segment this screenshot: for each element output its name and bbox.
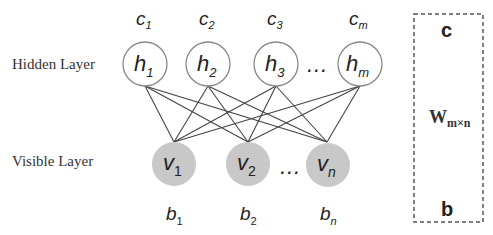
svg-text:b2: b2: [240, 203, 257, 227]
hidden-node-m: cm hm: [338, 8, 382, 86]
param-w: Wm×n: [429, 107, 471, 130]
visible-node-2: v2 b2: [226, 142, 270, 227]
visible-node-1: v1 b1: [152, 142, 196, 227]
param-b: b: [441, 198, 453, 220]
edges: [145, 86, 360, 142]
svg-text:bn: bn: [320, 203, 337, 227]
parameter-box: c Wm×n b: [414, 14, 483, 222]
visible-layer-label: Visible Layer: [12, 153, 93, 169]
param-c: c: [441, 19, 452, 41]
rbm-diagram: Hidden Layer Visible Layer c1 h1 c2 h2 c…: [0, 0, 493, 235]
visible-node-n: vn bn: [306, 143, 350, 227]
svg-text:b1: b1: [166, 203, 183, 227]
svg-text:c3: c3: [267, 8, 284, 31]
svg-text:c2: c2: [199, 8, 215, 31]
hidden-node-1: c1 h1: [123, 8, 167, 86]
hidden-layer-label: Hidden Layer: [12, 56, 95, 72]
hidden-node-3: c3 h3: [254, 8, 298, 86]
svg-text:cm: cm: [349, 8, 368, 31]
hidden-node-2: c2 h2: [186, 8, 230, 86]
svg-text:c1: c1: [136, 8, 152, 31]
hidden-ellipsis: …: [306, 52, 328, 77]
visible-ellipsis: …: [279, 154, 301, 179]
